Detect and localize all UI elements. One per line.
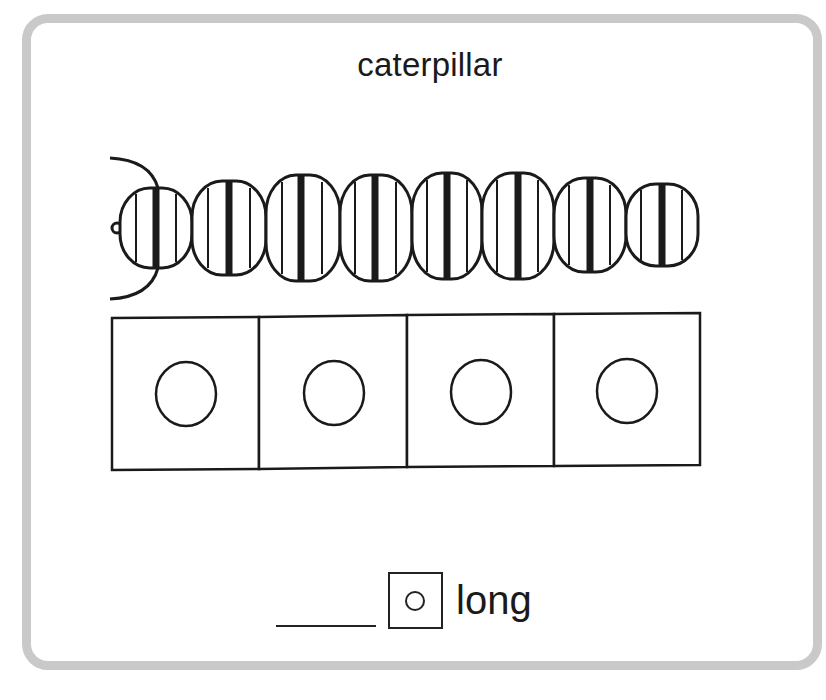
caterpillar-segment xyxy=(482,173,554,279)
sound-box-2[interactable] xyxy=(259,315,407,469)
caterpillar-segment xyxy=(192,181,266,275)
vowel-sound-box xyxy=(388,572,443,629)
caterpillar-segment xyxy=(266,175,340,281)
vowel-label: long xyxy=(456,578,532,623)
answer-blank-line[interactable] xyxy=(276,625,376,627)
caterpillar-segment xyxy=(626,184,698,266)
caterpillar-segment xyxy=(120,188,192,268)
circle-marker-icon xyxy=(405,591,425,611)
caterpillar-body xyxy=(120,173,698,281)
sound-box-3[interactable] xyxy=(407,314,554,467)
sound-boxes xyxy=(112,313,700,470)
sound-box-4[interactable] xyxy=(554,313,700,466)
antenna-bottom-icon xyxy=(110,268,158,299)
caterpillar-segment xyxy=(412,173,482,279)
antenna-top-icon xyxy=(110,158,158,188)
sound-box-1[interactable] xyxy=(112,317,259,470)
caterpillar-segment xyxy=(554,178,626,272)
caterpillar-segment xyxy=(340,175,412,281)
